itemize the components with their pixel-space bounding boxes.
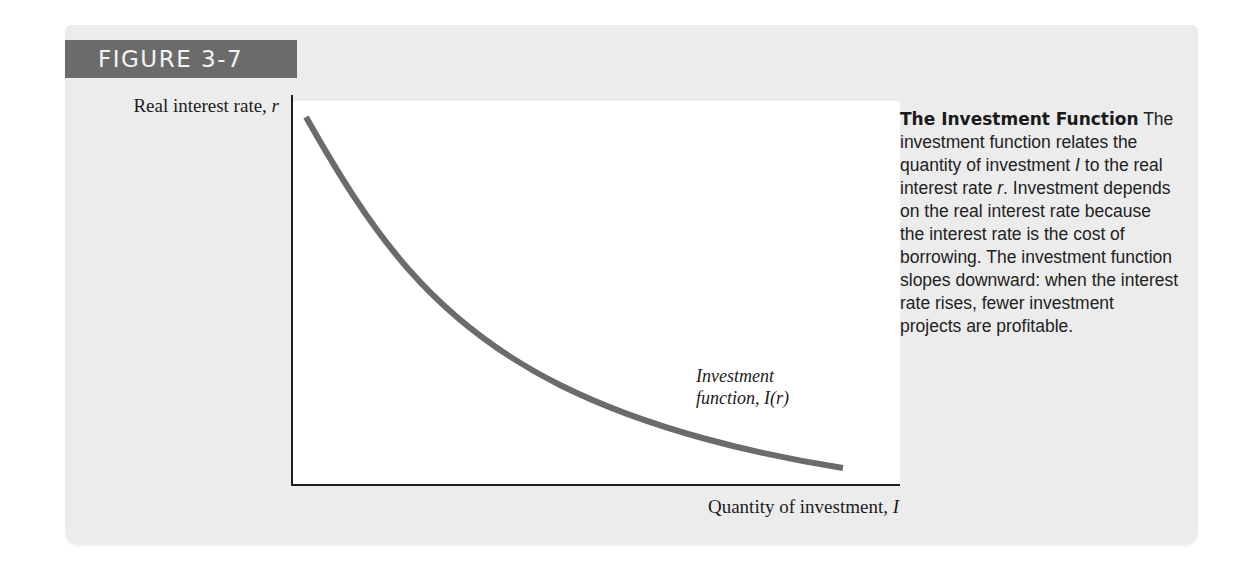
curve-label-line2: function, I(r) [696, 387, 789, 409]
y-axis-variable: r [272, 95, 279, 116]
caption-text-3: . Investment depends on the real interes… [900, 178, 1178, 336]
curve-label-line1: Investment [696, 365, 789, 387]
curve-label-prefix: function, [696, 388, 764, 408]
plot-area [291, 101, 900, 485]
y-axis [291, 95, 293, 486]
x-axis [291, 484, 900, 486]
caption-title: The Investment Function [900, 109, 1139, 129]
curve-label-function: I(r) [764, 388, 789, 408]
x-axis-variable: I [893, 496, 899, 517]
y-axis-label-text: Real interest rate, [133, 95, 271, 116]
y-axis-label: Real interest rate, r [133, 95, 279, 117]
figure-number-tag: FIGURE 3-7 [65, 40, 297, 78]
curve-label: Investment function, I(r) [696, 365, 789, 409]
x-axis-label-text: Quantity of investment, [708, 496, 893, 517]
figure-caption: The Investment Function The investment f… [900, 108, 1180, 338]
x-axis-label: Quantity of investment, I [708, 496, 899, 518]
